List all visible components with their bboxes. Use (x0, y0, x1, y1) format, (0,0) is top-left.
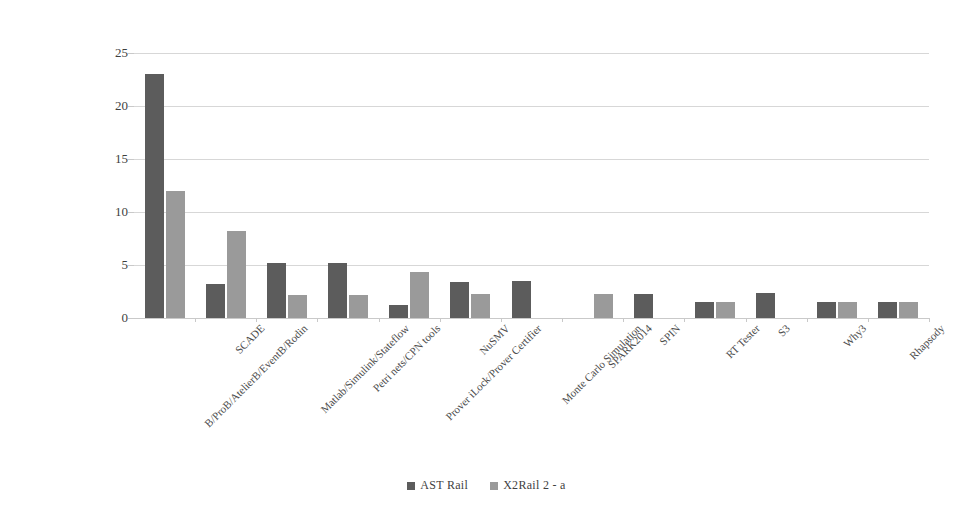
bar (410, 272, 429, 318)
y-tick-mark (128, 318, 134, 319)
bar (756, 293, 775, 318)
x-tick-label: S3 (776, 322, 793, 339)
bar (227, 231, 246, 318)
bar (634, 294, 653, 318)
y-tick-mark (128, 265, 134, 266)
y-tick-label: 20 (92, 99, 128, 112)
legend-swatch-icon (490, 482, 498, 490)
bar-group (328, 53, 368, 318)
bar (328, 263, 347, 318)
x-axis-labels: B/ProB/AtelierB/EventB/RodinSCADEMatlab/… (134, 322, 954, 452)
bar (349, 295, 368, 318)
bar (206, 284, 225, 318)
bar (817, 302, 836, 318)
bar (471, 294, 490, 318)
gridline (134, 318, 929, 319)
bar (145, 74, 164, 318)
legend-item: AST Rail (407, 478, 468, 493)
bar (838, 302, 857, 318)
bar (450, 282, 469, 318)
bar-group (512, 53, 552, 318)
bar (716, 302, 735, 318)
bar-group (145, 53, 185, 318)
bar (594, 294, 613, 318)
x-tick-label: Why3 (841, 322, 868, 349)
y-tick-mark (128, 106, 134, 107)
bar-group (206, 53, 246, 318)
bar-group (878, 53, 918, 318)
bar-group (389, 53, 429, 318)
x-tick-label: SCADE (232, 322, 266, 356)
bar-group (267, 53, 307, 318)
x-tick-label: SPIN (657, 322, 682, 347)
y-tick-label: 15 (92, 152, 128, 165)
y-tick-label: 10 (92, 205, 128, 218)
y-tick-mark (128, 212, 134, 213)
x-tick-label: Monte Carlo Simulation (559, 322, 643, 406)
bar (899, 302, 918, 318)
bar-group (817, 53, 857, 318)
bar (267, 263, 286, 318)
y-tick-mark (128, 159, 134, 160)
legend-item: X2Rail 2 - a (490, 478, 566, 493)
bar-group (756, 53, 796, 318)
y-axis-labels: 2520151050 (88, 53, 128, 318)
bar (878, 302, 897, 318)
bar-group (695, 53, 735, 318)
plot-area (134, 53, 929, 318)
bar (288, 295, 307, 318)
legend-label: AST Rail (420, 478, 468, 493)
y-tick-label: 5 (92, 258, 128, 271)
bar (389, 305, 408, 318)
bar (166, 191, 185, 318)
bar (695, 302, 714, 318)
bar-chart: 2520151050 B/ProB/AtelierB/EventB/RodinS… (0, 0, 973, 528)
x-tick-label: Rhapsody (907, 322, 947, 362)
chart-legend: AST RailX2Rail 2 - a (0, 478, 973, 493)
bar (512, 281, 531, 318)
legend-label: X2Rail 2 - a (503, 478, 566, 493)
bar-group (634, 53, 674, 318)
bar-group (450, 53, 490, 318)
bar-group (573, 53, 613, 318)
y-tick-label: 0 (92, 311, 128, 324)
legend-swatch-icon (407, 482, 415, 490)
y-tick-label: 25 (92, 46, 128, 59)
y-tick-mark (128, 53, 134, 54)
x-tick-label: RT Tester (723, 322, 762, 361)
